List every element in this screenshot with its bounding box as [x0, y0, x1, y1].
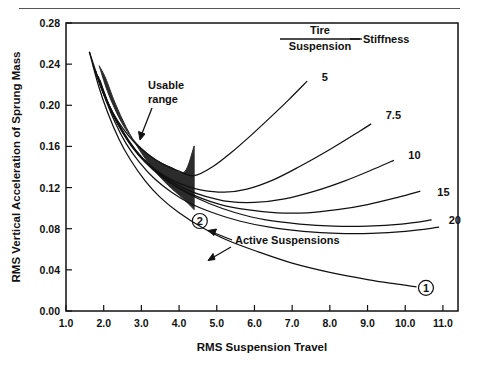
usable-range-line1: Usable — [148, 79, 184, 91]
x-axis-ticks: 1.02.03.04.05.06.07.08.09.010.011.0 — [59, 305, 453, 329]
y-tick-label: 0.04 — [40, 264, 61, 276]
legend-numerator: Tire — [310, 24, 330, 36]
x-tick-label: 11.0 — [433, 317, 453, 329]
x-axis-title: RMS Suspension Travel — [197, 341, 327, 353]
curve-labels: 57.510152012 — [192, 71, 461, 295]
curve-active-suspension-2 — [95, 71, 439, 234]
y-tick-label: 0.08 — [40, 223, 61, 235]
x-tick-label: 9.0 — [360, 317, 375, 329]
usable-range-arrow-shaft — [141, 108, 152, 136]
y-tick-label: 0.16 — [40, 140, 61, 152]
x-tick-label: 1.0 — [59, 317, 74, 329]
y-axis-title: RMS Vertical Acceleration of Sprung Mass — [10, 52, 22, 283]
curve-label-active-suspension-1: 1 — [423, 282, 429, 294]
legend-title: Tire Suspension Stiffness — [280, 24, 409, 52]
usable-range-arrow-head — [139, 132, 146, 141]
active-suspensions-arrow-head-lower — [208, 254, 215, 261]
curve-7.5 — [93, 66, 371, 193]
annotation-active-suspensions: Active Suspensions — [208, 229, 340, 261]
legend-denominator: Suspension — [289, 40, 352, 52]
x-tick-label: 2.0 — [96, 317, 111, 329]
y-tick-label: 0.24 — [40, 58, 61, 70]
curve-5 — [89, 52, 307, 176]
curve-label-7.5: 7.5 — [386, 109, 401, 121]
x-tick-label: 6.0 — [247, 317, 262, 329]
y-axis-ticks: 0.000.040.080.120.160.200.240.28 — [40, 17, 72, 317]
x-tick-label: 5.0 — [209, 317, 224, 329]
curve-15 — [98, 76, 420, 213]
curve-label-20: 20 — [449, 214, 461, 226]
plot-frame — [66, 23, 458, 311]
active-suspensions-arrow-shaft-lower — [212, 247, 231, 258]
curve-label-5: 5 — [322, 71, 328, 83]
y-tick-label: 0.28 — [40, 17, 61, 29]
x-tick-label: 3.0 — [134, 317, 149, 329]
usable-range-line2: range — [148, 93, 178, 105]
chart-figure: 1.02.03.04.05.06.07.08.09.010.011.0 0.00… — [0, 0, 478, 367]
y-tick-label: 0.12 — [40, 182, 61, 194]
curve-active-suspension-1 — [89, 52, 416, 287]
active-suspensions-label: Active Suspensions — [235, 234, 340, 246]
y-tick-label: 0.00 — [40, 305, 61, 317]
y-tick-label: 0.20 — [40, 99, 61, 111]
curve-label-active-suspension-2: 2 — [197, 215, 203, 227]
x-tick-label: 4.0 — [172, 317, 187, 329]
legend-suffix: Stiffness — [363, 33, 409, 45]
x-tick-label: 8.0 — [323, 317, 338, 329]
curve-label-10: 10 — [408, 149, 420, 161]
x-tick-label: 7.0 — [285, 317, 300, 329]
annotation-usable-range: Usable range — [139, 79, 185, 140]
curve-label-15: 15 — [437, 186, 449, 198]
x-tick-label: 10.0 — [395, 317, 416, 329]
data-curves — [89, 52, 439, 287]
